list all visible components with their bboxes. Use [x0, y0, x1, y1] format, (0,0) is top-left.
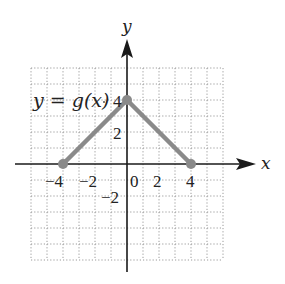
y-tick-neg2: −2 [101, 188, 119, 207]
vertex-point [122, 95, 132, 105]
function-graph: y x y = g(x) −4 −2 0 2 4 4 2 −2 [0, 0, 285, 284]
y-axis-label: y [121, 16, 132, 36]
endpoint-right [186, 159, 196, 169]
y-tick-2: 2 [113, 124, 122, 143]
endpoint-left [58, 159, 68, 169]
axes [15, 54, 240, 272]
x-tick-2: 2 [153, 172, 162, 191]
x-tick-neg4: −4 [45, 172, 64, 191]
x-tick-neg2: −2 [79, 172, 97, 191]
x-tick-0: 0 [130, 172, 139, 191]
x-axis-label: x [261, 153, 271, 173]
label-leader-dot [103, 101, 105, 103]
function-label: y = g(x) [32, 89, 109, 111]
x-tick-4: 4 [186, 172, 195, 191]
y-tick-4: 4 [113, 92, 122, 111]
